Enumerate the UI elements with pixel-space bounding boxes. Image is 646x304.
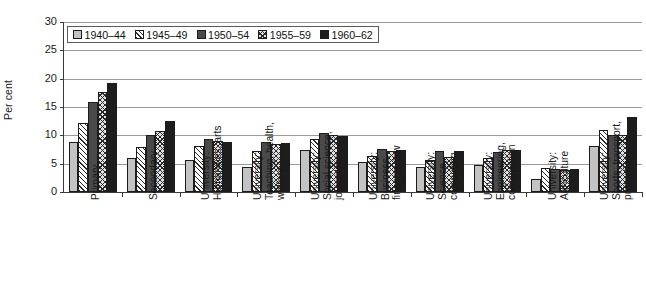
- bar: [69, 142, 79, 192]
- y-axis-tick-mark: [60, 135, 64, 136]
- legend-label: 1940–44: [85, 29, 126, 41]
- bar: [416, 167, 426, 193]
- category-label-line: Teaching, health,: [263, 122, 275, 200]
- x-axis-tick-mark: [180, 192, 181, 197]
- category-label-line: welfare: [275, 122, 287, 200]
- category-label-line: Social science,: [321, 131, 333, 200]
- category-label-line: protection: [622, 121, 634, 200]
- bar: [223, 142, 233, 192]
- x-axis-tick-mark: [237, 192, 238, 197]
- category-label-line: University:: [200, 126, 212, 200]
- x-axis-category-label: University:Engineering,construction: [483, 142, 518, 200]
- y-axis-tick-label: 20: [27, 73, 57, 84]
- bar: [185, 160, 195, 192]
- x-axis-tick-mark: [526, 192, 527, 197]
- x-axis-category-label: University:Teaching, health,welfare: [252, 122, 287, 200]
- legend-swatch-icon: [258, 30, 267, 39]
- y-axis-tick-mark: [60, 164, 64, 165]
- x-axis-category-label: University:Agriculture: [547, 151, 570, 200]
- category-label-line: Primary: [90, 165, 102, 200]
- category-label-line: University:: [368, 146, 380, 200]
- y-axis-tick-mark: [60, 79, 64, 80]
- category-label-line: journalism: [333, 131, 345, 200]
- legend-swatch-icon: [73, 30, 82, 39]
- legend-swatch-icon: [320, 30, 329, 39]
- bar: [242, 167, 252, 193]
- y-axis-tick-mark: [60, 107, 64, 108]
- y-axis-tick-label: 30: [27, 16, 57, 27]
- x-axis-category-label: Primary: [90, 165, 102, 200]
- category-label-line: finance, law: [391, 146, 403, 200]
- y-axis-title: Per cent: [2, 60, 14, 140]
- x-axis-category-label: University:Social science,journalism: [310, 131, 345, 200]
- x-axis-tick-mark: [295, 192, 296, 197]
- legend-label: 1955–59: [270, 29, 311, 41]
- y-axis-tick-label: 0: [27, 186, 57, 197]
- y-axis-tick-mark: [60, 22, 64, 23]
- category-label-line: Humanities, arts: [211, 126, 223, 200]
- y-axis-tick-label: 10: [27, 129, 57, 140]
- category-label-line: Business,: [379, 146, 391, 200]
- x-axis-tick-mark: [411, 192, 412, 197]
- bar: [165, 121, 175, 192]
- category-label-line: Engineering,: [495, 142, 507, 200]
- legend-item: 1955–59: [258, 29, 311, 41]
- x-axis-tick-mark: [469, 192, 470, 197]
- bar-chart: Per cent 1940–441945–491950–541955–59196…: [0, 0, 646, 304]
- y-axis-tick-mark: [60, 192, 64, 193]
- y-axis-tick-label: 25: [27, 44, 57, 55]
- y-axis-tick-mark: [60, 50, 64, 51]
- y-axis-tick-label: 5: [27, 158, 57, 169]
- category-label-line: Science,: [437, 152, 449, 200]
- category-label-line: University:: [547, 151, 559, 200]
- bar: [136, 147, 146, 192]
- category-label-line: University:: [599, 121, 611, 200]
- bar: [570, 169, 580, 192]
- bar: [78, 123, 88, 192]
- legend-swatch-icon: [135, 30, 144, 39]
- legend-swatch-icon: [197, 30, 206, 39]
- bar: [358, 162, 368, 192]
- x-axis-tick-mark: [642, 192, 643, 197]
- bar: [531, 179, 541, 192]
- legend-label: 1945–49: [146, 29, 187, 41]
- legend-item: 1960–62: [320, 29, 373, 41]
- x-axis-category-label: University:Business,finance, law: [368, 146, 403, 200]
- x-axis-category-label: University:Science,computing: [425, 152, 460, 200]
- legend-item: 1945–49: [135, 29, 188, 41]
- x-axis-tick-mark: [584, 192, 585, 197]
- legend-item: 1950–54: [197, 29, 250, 41]
- legend-item: 1940–44: [73, 29, 126, 41]
- category-label-line: Secondary: [148, 151, 160, 200]
- category-label-line: University:: [483, 142, 495, 200]
- category-label-line: construction: [506, 142, 518, 200]
- y-axis-tick-label: 15: [27, 101, 57, 112]
- chart-legend: 1940–441945–491950–541955–591960–62: [67, 26, 379, 43]
- bar: [589, 146, 599, 192]
- category-label-line: computing: [448, 152, 460, 200]
- bar: [127, 158, 137, 192]
- bar: [474, 165, 484, 192]
- x-axis-tick-mark: [353, 192, 354, 197]
- legend-label: 1960–62: [332, 29, 373, 41]
- category-label-line: University:: [310, 131, 322, 200]
- bar: [300, 150, 310, 193]
- x-axis-category-label: University:Sports, transport,protection: [599, 121, 634, 200]
- bar: [107, 83, 117, 192]
- legend-label: 1950–54: [208, 29, 249, 41]
- category-label-line: Agriculture: [558, 151, 570, 200]
- category-label-line: Sports, transport,: [610, 121, 622, 200]
- x-axis-category-label: Secondary: [148, 151, 160, 200]
- category-label-line: University:: [252, 122, 264, 200]
- x-axis-category-label: University:Humanities, arts: [200, 126, 223, 200]
- x-axis-tick-mark: [122, 192, 123, 197]
- category-label-line: University:: [425, 152, 437, 200]
